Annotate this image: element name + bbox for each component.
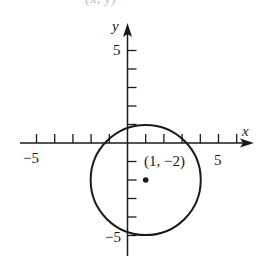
center-point-label: (1, −2) xyxy=(144,153,185,170)
y-tick-label-pos5: 5 xyxy=(113,42,121,58)
coordinate-plane: x y −5 5 5 −5 (1, −2) xyxy=(0,0,268,262)
y-tick-label-neg5: −5 xyxy=(105,229,121,245)
x-axis-label: x xyxy=(241,123,249,139)
x-tick-label-neg5: −5 xyxy=(23,150,39,166)
x-tick-label-pos5: 5 xyxy=(214,152,222,168)
center-point xyxy=(143,177,149,183)
y-axis-label: y xyxy=(110,18,119,34)
